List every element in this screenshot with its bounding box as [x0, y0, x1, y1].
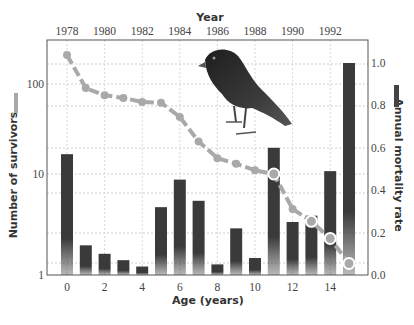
mortality-tick: 0.6: [371, 142, 386, 154]
age-tick: 14: [324, 281, 336, 293]
survivor-point: [213, 154, 221, 162]
mortality-bar: [343, 63, 355, 275]
mortality-tick: 0.4: [371, 184, 386, 196]
survivors-legend-swatch: [14, 93, 18, 113]
mortality-tick: 0.0: [371, 269, 386, 281]
top-axis-title: Year: [195, 11, 224, 24]
survivor-point: [344, 258, 355, 269]
mortality-tick: 0.8: [371, 99, 386, 111]
year-tick: 1988: [244, 25, 267, 37]
year-tick: 1986: [206, 25, 229, 37]
mortality-tick: 1.0: [371, 57, 386, 69]
year-tick: 1984: [168, 25, 191, 37]
age-tick: 0: [64, 281, 70, 293]
survivor-point: [101, 91, 109, 99]
survivor-point: [325, 233, 336, 244]
survivor-point: [195, 137, 203, 145]
survivor-point: [289, 205, 297, 213]
survivor-point: [157, 99, 165, 107]
chart: 1978198019821984198619881990199202468101…: [0, 0, 414, 325]
age-tick: 2: [102, 281, 108, 293]
survivors-tick: 10: [33, 168, 45, 180]
survivor-point: [138, 98, 146, 106]
mortality-bar: [155, 207, 167, 275]
survivor-point: [306, 216, 317, 227]
mortality-bar: [117, 260, 129, 275]
mortality-legend-swatch: [394, 85, 399, 107]
survivor-point: [119, 94, 127, 102]
mortality-tick: 0.2: [371, 227, 386, 239]
year-tick: 1978: [56, 25, 79, 37]
mortality-bar: [61, 154, 73, 275]
x-axis-title: Age (years): [172, 294, 244, 307]
mortality-bar: [230, 228, 242, 275]
mortality-bar: [174, 180, 186, 275]
mortality-bar: [136, 267, 148, 275]
survivor-point: [251, 166, 259, 174]
right-axis-title: Annual mortality rate: [392, 98, 405, 232]
survivor-point: [63, 51, 71, 59]
mortality-bar: [324, 171, 336, 275]
age-tick: 8: [215, 281, 221, 293]
year-tick: 1982: [131, 25, 154, 37]
year-tick: 1980: [93, 25, 116, 37]
mortality-bar: [193, 201, 205, 275]
mortality-bar: [80, 245, 92, 275]
survivors-tick: 100: [27, 78, 45, 90]
survivor-point: [268, 169, 279, 180]
gridlines: [47, 40, 368, 275]
finch-illustration: [198, 50, 292, 134]
age-tick: 4: [139, 281, 145, 293]
mortality-bar: [211, 264, 223, 275]
year-tick: 1990: [281, 25, 304, 37]
mortality-bar: [287, 222, 299, 275]
survivor-point: [176, 113, 184, 121]
mortality-bar: [249, 258, 261, 275]
survivor-point: [82, 84, 90, 92]
left-axis-title: Number of survivors: [7, 111, 20, 238]
age-tick: 6: [177, 281, 183, 293]
survivor-point: [232, 160, 240, 168]
age-tick: 10: [249, 281, 261, 293]
plot-frame: [47, 40, 368, 275]
mortality-bar: [99, 254, 111, 275]
year-tick: 1992: [319, 25, 342, 37]
age-tick: 12: [287, 281, 299, 293]
survivors-tick: 1: [38, 269, 44, 281]
mortality-bar: [268, 148, 280, 275]
